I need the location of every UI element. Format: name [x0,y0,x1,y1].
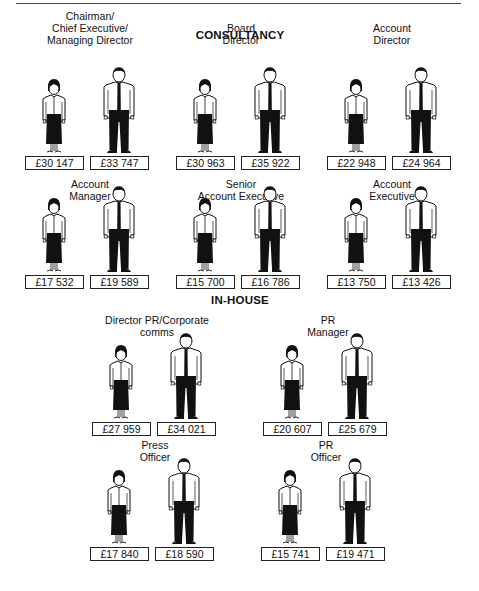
salary-female: £20 607 [263,422,322,436]
title-line: Managing Director [5,34,175,46]
title-line: Executive [307,190,477,202]
job-title: Account Executive [307,178,477,202]
salary-male: £24 964 [392,156,451,170]
man-icon [253,66,287,154]
job-title: Board Director [156,22,326,46]
title-line: Director PR/Corporate [72,314,242,326]
job-title: Account Director [307,22,477,46]
salary-male: £35 922 [241,156,300,170]
salary-female: £15 700 [176,275,235,289]
salary-female: £27 959 [92,422,151,436]
man-icon [253,185,287,273]
woman-icon [341,78,371,154]
title-line: Senior [156,178,326,190]
woman-icon [277,344,307,420]
title-line: Director [156,34,326,46]
salary-female: £17 532 [25,275,84,289]
woman-icon [190,78,220,154]
salary-male: £18 590 [155,547,214,561]
salary-female: £13 750 [327,275,386,289]
man-icon [338,457,372,545]
title-line: PR [243,314,413,326]
salary-male: £25 679 [328,422,387,436]
salary-female: £30 147 [25,156,84,170]
section-title-in-house: IN-HOUSE [160,294,320,306]
job-title: Account Manager [5,178,175,202]
woman-icon [275,469,305,545]
job-title: PR Officer [241,439,411,463]
man-icon [167,457,201,545]
salary-female: £17 840 [90,547,149,561]
title-line: Account [5,178,175,190]
woman-icon [39,78,69,154]
title-line: Manager [243,326,413,338]
job-title: Chairman/ Chief Executive/ Managing Dire… [5,10,175,46]
woman-icon [341,197,371,273]
title-line: Account Executive [156,190,326,202]
title-line: Board [156,22,326,34]
title-line: Director [307,34,477,46]
title-line: Press [70,439,240,451]
woman-icon [104,469,134,545]
salary-male: £33 747 [90,156,149,170]
title-line: Officer [241,451,411,463]
salary-male: £19 589 [90,275,149,289]
salary-female: £22 948 [327,156,386,170]
title-line: Chairman/ [5,10,175,22]
job-title: PR Manager [243,314,413,338]
salary-male: £19 471 [326,547,385,561]
salary-female: £30 963 [176,156,235,170]
job-title: Senior Account Executive [156,178,326,202]
title-line: Chief Executive/ [5,22,175,34]
salary-male: £13 426 [392,275,451,289]
man-icon [102,66,136,154]
title-line: comms [72,326,242,338]
woman-icon [190,197,220,273]
woman-icon [39,197,69,273]
man-icon [102,185,136,273]
woman-icon [106,344,136,420]
man-icon [404,185,438,273]
man-icon [404,66,438,154]
salary-male: £34 021 [157,422,216,436]
job-title: Press Officer [70,439,240,463]
top-rule [16,3,461,4]
salary-female: £15 741 [261,547,320,561]
title-line: Manager [5,190,175,202]
job-title: Director PR/Corporate comms [72,314,242,338]
title-line: Officer [70,451,240,463]
title-line: PR [241,439,411,451]
man-icon [340,332,374,420]
title-line: Account [307,22,477,34]
salary-male: £16 786 [241,275,300,289]
man-icon [169,332,203,420]
title-line: Account [307,178,477,190]
